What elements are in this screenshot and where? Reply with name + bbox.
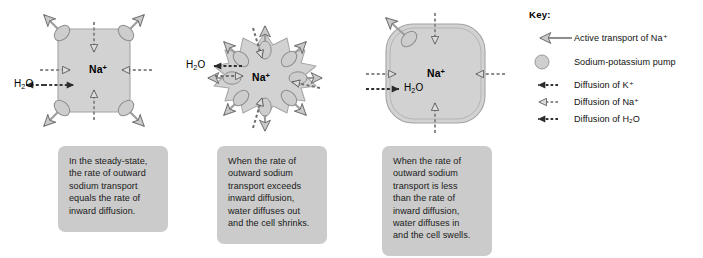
legend: Key: Active transport of Na⁺ Sodium-pota… (528, 8, 703, 126)
cell-3-ion-label: Na+ (427, 67, 445, 79)
legend-label: Diffusion of K⁺ (574, 80, 634, 90)
caption-box-swelling: When the rate of outward sodium transpor… (382, 146, 492, 256)
cell-2-ion-label: Na+ (252, 71, 270, 83)
figure-root: Na+ H2O Na+ H2O Na+ H2O In the steady-st… (0, 0, 703, 258)
pump-circle-icon (528, 54, 574, 70)
legend-title: Key: (529, 9, 551, 20)
legend-row-active-transport: Active transport of Na⁺ (528, 30, 668, 46)
caption-text: In the steady-state, the rate of outward… (69, 155, 159, 217)
cell-1-water-label: H2O (14, 78, 33, 91)
cell-1-ion-label: Na+ (89, 63, 107, 75)
legend-label: Sodium-potassium pump (574, 57, 676, 67)
cell-2-pump-s (259, 98, 271, 131)
legend-label: Active transport of Na⁺ (574, 33, 668, 43)
legend-label: Diffusion of Na⁺ (574, 97, 639, 107)
legend-row-diffusion-na: Diffusion of Na⁺ (528, 94, 639, 110)
legend-row-diffusion-h2o: Diffusion of H₂O (528, 111, 640, 127)
legend-row-diffusion-k: Diffusion of K⁺ (528, 77, 634, 93)
legend-row-pump: Sodium-potassium pump (528, 54, 676, 70)
dotted-hollow-arrow-icon (528, 94, 574, 110)
caption-text: When the rate of outward sodium transpor… (393, 155, 483, 242)
caption-box-steady-state: In the steady-state, the rate of outward… (58, 146, 168, 232)
dotted-solid-arrow-icon (528, 77, 574, 93)
caption-box-shrinking: When the rate of outward sodium transpor… (217, 146, 327, 244)
active-transport-arrow-icon (528, 30, 574, 46)
cell-2-water-label: H2O (186, 59, 205, 72)
cell-3-water-label: H2O (404, 82, 423, 95)
dotted-solid-arrow-icon (528, 111, 574, 127)
caption-text: When the rate of outward sodium transpor… (228, 155, 318, 229)
legend-label: Diffusion of H₂O (574, 114, 640, 124)
